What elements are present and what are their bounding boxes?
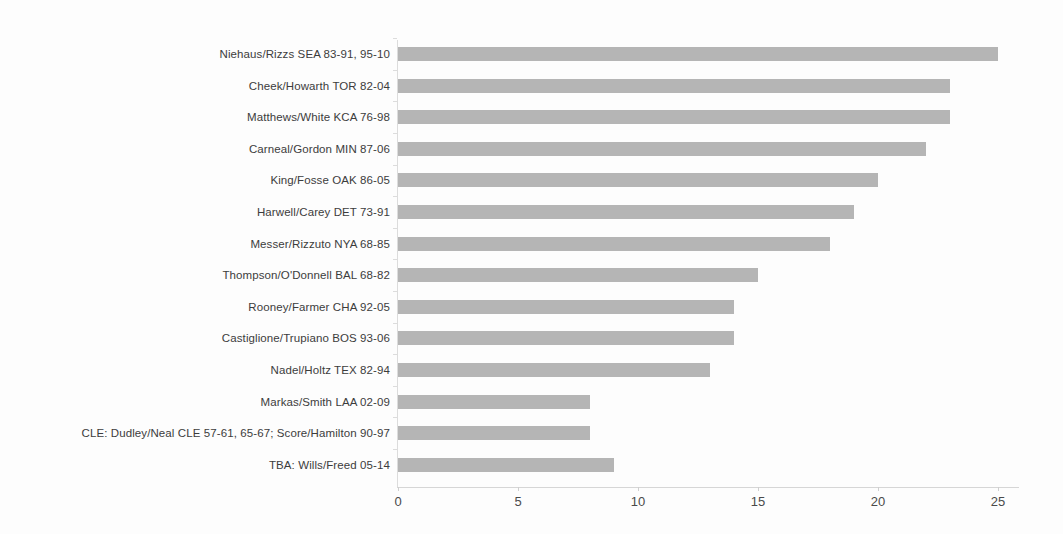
bar: [398, 173, 878, 187]
bar: [398, 142, 926, 156]
y-axis-tick: [393, 165, 397, 166]
y-axis-tick: [393, 417, 397, 418]
y-axis-tick: [393, 38, 397, 39]
bar: [398, 395, 590, 409]
x-axis-tick-label: 10: [608, 494, 668, 509]
bar-chart: Niehaus/Rizzs SEA 83-91, 95-10Cheek/Howa…: [0, 0, 1063, 534]
bar-row: TBA: Wills/Freed 05-14: [0, 458, 1063, 490]
y-axis-tick: [393, 196, 397, 197]
bar-category-label: Harwell/Carey DET 73-91: [257, 205, 390, 219]
y-axis-tick: [393, 259, 397, 260]
y-axis-tick: [393, 228, 397, 229]
plot-area: Niehaus/Rizzs SEA 83-91, 95-10Cheek/Howa…: [0, 0, 1063, 534]
y-axis-tick: [393, 354, 397, 355]
bar-category-label: TBA: Wills/Freed 05-14: [269, 458, 390, 472]
bar: [398, 300, 734, 314]
x-axis-tick-label: 20: [848, 494, 908, 509]
x-axis-tick: [638, 487, 639, 491]
bar-row: Niehaus/Rizzs SEA 83-91, 95-10: [0, 47, 1063, 79]
bar-row: Matthews/White KCA 76-98: [0, 110, 1063, 142]
bar-row: Harwell/Carey DET 73-91: [0, 205, 1063, 237]
bar-category-label: Nadel/Holtz TEX 82-94: [270, 363, 390, 377]
bar-category-label: Messer/Rizzuto NYA 68-85: [250, 237, 390, 251]
bar-row: Cheek/Howarth TOR 82-04: [0, 79, 1063, 111]
bar-row: CLE: Dudley/Neal CLE 57-61, 65-67; Score…: [0, 426, 1063, 458]
bar: [398, 426, 590, 440]
bar: [398, 47, 998, 61]
bar-row: King/Fosse OAK 86-05: [0, 173, 1063, 205]
bar-row: Nadel/Holtz TEX 82-94: [0, 363, 1063, 395]
x-axis-tick: [398, 487, 399, 491]
bar: [398, 268, 758, 282]
bar: [398, 205, 854, 219]
x-axis-tick-label: 25: [968, 494, 1028, 509]
bar-category-label: Castiglione/Trupiano BOS 93-06: [222, 331, 390, 345]
x-axis-tick-label: 5: [488, 494, 548, 509]
bar-row: Markas/Smith LAA 02-09: [0, 395, 1063, 427]
bar: [398, 331, 734, 345]
y-axis-tick: [393, 386, 397, 387]
bar-category-label: Cheek/Howarth TOR 82-04: [249, 79, 390, 93]
bar-row: Castiglione/Trupiano BOS 93-06: [0, 331, 1063, 363]
y-axis-tick: [393, 291, 397, 292]
bar-category-label: Markas/Smith LAA 02-09: [261, 395, 390, 409]
bar-category-label: Matthews/White KCA 76-98: [247, 110, 390, 124]
bar-category-label: Carneal/Gordon MIN 87-06: [249, 142, 390, 156]
x-axis-tick-label: 15: [728, 494, 788, 509]
bar-row: Carneal/Gordon MIN 87-06: [0, 142, 1063, 174]
x-axis-tick: [518, 487, 519, 491]
y-axis-tick: [393, 70, 397, 71]
bar: [398, 237, 830, 251]
y-axis-tick: [393, 449, 397, 450]
bar-row: Messer/Rizzuto NYA 68-85: [0, 237, 1063, 269]
x-axis-tick: [878, 487, 879, 491]
bar-category-label: Thompson/O'Donnell BAL 68-82: [222, 268, 390, 282]
y-axis-tick: [393, 323, 397, 324]
x-axis-tick: [758, 487, 759, 491]
bar: [398, 363, 710, 377]
bar: [398, 110, 950, 124]
bar: [398, 458, 614, 472]
x-axis-tick: [998, 487, 999, 491]
bar-category-label: Rooney/Farmer CHA 92-05: [248, 300, 390, 314]
bar: [398, 79, 950, 93]
y-axis-tick: [393, 133, 397, 134]
y-axis-tick: [393, 101, 397, 102]
bar-row: Thompson/O'Donnell BAL 68-82: [0, 268, 1063, 300]
bar-category-label: CLE: Dudley/Neal CLE 57-61, 65-67; Score…: [82, 426, 391, 440]
bar-row: Rooney/Farmer CHA 92-05: [0, 300, 1063, 332]
bar-category-label: Niehaus/Rizzs SEA 83-91, 95-10: [220, 47, 390, 61]
bar-category-label: King/Fosse OAK 86-05: [270, 173, 390, 187]
x-axis-tick-label: 0: [368, 494, 428, 509]
